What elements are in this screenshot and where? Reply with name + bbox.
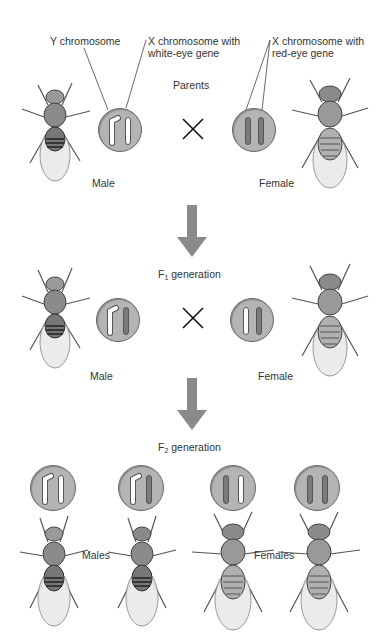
x-red-chromosome xyxy=(307,475,313,504)
parent-male-label: Male xyxy=(92,177,115,189)
f2-female1-fly-icon xyxy=(188,508,278,632)
cross-icon xyxy=(181,306,205,330)
parent-female-label: Female xyxy=(259,177,294,189)
y-chromosome xyxy=(119,466,165,512)
x-white-chromosome xyxy=(243,307,249,335)
x-white-chromosome xyxy=(58,475,64,504)
f2-male2-fly-icon xyxy=(102,512,182,632)
f1-generation-label: F1 generation xyxy=(158,268,221,284)
f1-male-chromosomes xyxy=(96,298,140,342)
y-chromosome xyxy=(99,109,143,153)
down-arrow-icon xyxy=(177,205,207,260)
cross-icon xyxy=(181,117,205,141)
male-fly-icon xyxy=(10,75,100,185)
down-arrow-icon xyxy=(177,378,207,433)
f2-male1-chromosomes xyxy=(30,465,76,511)
x-red-chromosome xyxy=(258,117,264,145)
x-red-chromosome xyxy=(256,307,262,335)
f2-generation-label: F2 generation xyxy=(158,441,221,457)
f2-male2-chromosomes xyxy=(118,465,164,511)
f2-male1-fly-icon xyxy=(14,512,94,632)
x-red-chromosome xyxy=(223,475,229,504)
x-red-chromosome xyxy=(322,475,328,504)
parent-female-chromosomes xyxy=(232,108,276,152)
f1-female-chromosomes xyxy=(230,298,274,342)
x-white-chromosome xyxy=(125,117,131,145)
y-chromosome xyxy=(31,466,77,512)
f1-male-fly-icon xyxy=(10,262,100,372)
f1-female-fly-icon xyxy=(280,260,380,380)
x-white-chromosome xyxy=(238,475,244,504)
parent-male-chromosomes xyxy=(98,108,142,152)
y-chromosome xyxy=(97,299,141,343)
f1-male-label: Male xyxy=(90,370,113,382)
female-fly-icon xyxy=(280,72,380,192)
f2-female2-fly-icon xyxy=(274,508,364,632)
f2-female1-chromosomes xyxy=(210,465,256,511)
x-red-chromosome xyxy=(123,307,129,335)
x-red-chromosome xyxy=(245,117,251,145)
x-red-chromosome xyxy=(146,475,152,504)
f1-female-label: Female xyxy=(258,370,293,382)
f2-female2-chromosomes xyxy=(294,465,340,511)
